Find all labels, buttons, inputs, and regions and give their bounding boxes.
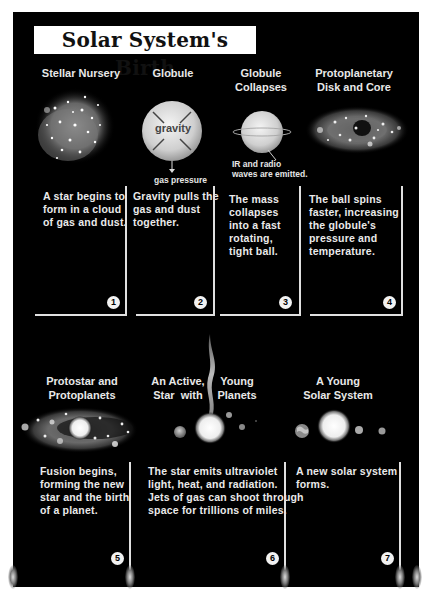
protostar-disk-icon [22,407,139,453]
collapsing-globule-icon [233,111,291,160]
gravity-label: gravity [155,123,191,133]
stage-number-1: 1 [107,296,120,309]
stage-number-4: 4 [383,296,396,309]
heading-protoplanetary-disk: Protoplanetary Disk and Core [302,66,406,94]
box-4-right-line [401,186,403,316]
box-7-right-line [399,462,401,577]
heading-globule: Globule [136,66,210,80]
heading-stellar-nursery: Stellar Nursery [34,66,128,80]
heading-active-star-left: An Active, Star with [150,374,206,402]
box-3-bottom-line [220,314,301,316]
box-4-bottom-line [310,314,403,316]
box-5-right-line [129,462,131,577]
ir-radio-label-line2: waves are emitted. [232,169,308,179]
young-solar-system-icon [295,409,386,443]
box-2-right-line [213,186,215,316]
description-stage-3: The masscollapsesinto a fastrotating,tig… [229,193,281,258]
stage-number-5: 5 [111,552,124,565]
box-1-bottom-line [35,314,127,316]
stage-number-2: 2 [194,296,207,309]
heading-young-solar-system: A Young Solar System [290,374,386,402]
stage-number-3: 3 [279,296,292,309]
bottom-glow [125,565,135,589]
description-stage-6: The star emits ultravioletlight, heat, a… [148,465,304,517]
globule-gravity-sphere-icon [142,101,202,173]
box-3-right-line [299,186,301,316]
gas-pressure-label: gas pressure [154,175,207,185]
bottom-glow [395,565,405,589]
description-stage-5: Fusion begins,forming the newstar and th… [40,465,129,517]
stage-number-7: 7 [381,552,394,565]
heading-protostar: Protostar and Protoplanets [30,374,134,402]
ir-radio-label-line1: IR and radio [232,159,281,169]
bottom-glow [8,565,18,589]
description-stage-2: Gravity pulls thegas and dusttogether. [133,190,219,229]
box-1-right-line [125,186,127,316]
bottom-glow [280,565,290,589]
description-stage-1: A star begins toform in a cloudof gas an… [43,190,127,229]
description-stage-7: A new solar systemforms. [296,465,397,491]
box-6-right-line [284,462,286,577]
bottom-glow [412,565,422,589]
protoplanetary-disk-icon [305,106,409,154]
stellar-nursery-cloud-icon [35,88,115,164]
description-stage-4: The ball spinsfaster, increasingthe glob… [309,193,399,258]
heading-active-star-right: Young Planets [214,374,260,402]
heading-globule-collapses: Globule Collapses [222,66,300,94]
stage-number-6: 6 [266,552,279,565]
box-2-bottom-line [136,314,215,316]
